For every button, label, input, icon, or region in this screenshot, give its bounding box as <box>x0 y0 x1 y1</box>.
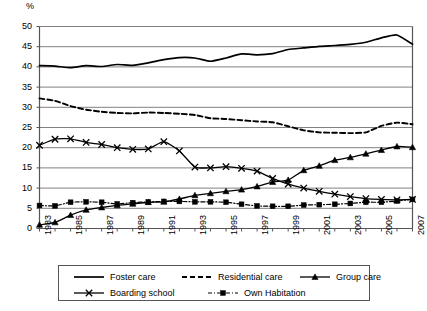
legend-row-1: Foster care Residential care Group care <box>59 269 369 285</box>
x-axis-tick-label: 2007 <box>417 214 426 234</box>
chart-container: % 05101520253035404550 19831985198719891… <box>0 0 427 311</box>
chart-legend: Foster care Residential care Group care … <box>58 265 370 301</box>
legend-item-group-care: Group care <box>299 269 381 285</box>
legend-swatch-residential-care <box>181 271 213 283</box>
legend-line-sample <box>299 271 331 283</box>
x-axis-tick-label: 1983 <box>44 214 53 234</box>
legend-marker <box>221 291 226 296</box>
x-axis-tick-label: 1995 <box>230 214 239 234</box>
x-axis-tick-label: 2003 <box>354 214 363 234</box>
legend-row-2: Boarding school Own Habitation <box>59 285 369 301</box>
legend-swatch-own-habitation <box>207 287 239 299</box>
legend-label-group-care: Group care <box>336 272 381 282</box>
legend-line-sample <box>207 287 239 299</box>
x-axis-tick-label: 1997 <box>261 214 270 234</box>
x-axis-tick-label: 2005 <box>385 214 394 234</box>
x-axis-tick-label: 2001 <box>323 214 332 234</box>
legend-item-boarding-school: Boarding school <box>73 285 175 301</box>
x-axis-tick-label: 1985 <box>75 214 84 234</box>
x-axis-tick-label: 1991 <box>168 214 177 234</box>
legend-swatch-foster-care <box>73 271 105 283</box>
legend-label-own-habitation: Own Habitation <box>244 288 306 298</box>
legend-line-sample <box>73 287 105 299</box>
legend-label-boarding-school: Boarding school <box>110 288 175 298</box>
legend-label-foster-care: Foster care <box>110 272 156 282</box>
x-axis-tick-label: 1987 <box>106 214 115 234</box>
legend-swatch-boarding-school <box>73 287 105 299</box>
legend-line-sample <box>181 271 213 283</box>
legend-item-foster-care: Foster care <box>73 269 156 285</box>
x-axis-tick-label: 1993 <box>199 214 208 234</box>
legend-label-residential-care: Residential care <box>218 272 283 282</box>
legend-line-sample <box>73 271 105 283</box>
legend-item-residential-care: Residential care <box>181 269 283 285</box>
x-axis-tick-label: 1999 <box>292 214 301 234</box>
x-axis-tick-label: 1989 <box>137 214 146 234</box>
legend-swatch-group-care <box>299 271 331 283</box>
legend-item-own-habitation: Own Habitation <box>207 285 306 301</box>
